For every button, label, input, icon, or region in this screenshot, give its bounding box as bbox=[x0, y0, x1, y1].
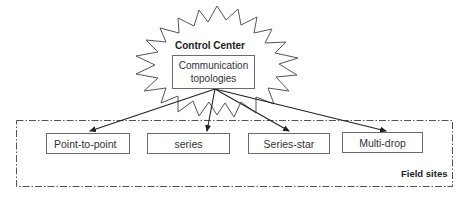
topology-label: series bbox=[174, 138, 202, 150]
arrow-to-multi-drop bbox=[215, 89, 386, 131]
communication-topologies-box: Communication topologies bbox=[172, 55, 255, 89]
topology-box-multi-drop: Multi-drop bbox=[342, 132, 423, 153]
topology-label: Series-star bbox=[264, 138, 315, 150]
communication-topologies-line1: Communication bbox=[179, 59, 248, 72]
field-sites-label: Field sites bbox=[401, 168, 447, 179]
topology-box-point-to-point: Point-to-point bbox=[46, 133, 130, 154]
topology-box-series: series bbox=[147, 133, 230, 154]
topology-label: Point-to-point bbox=[54, 138, 116, 150]
diagram-canvas bbox=[0, 0, 464, 198]
topology-box-series-star: Series-star bbox=[248, 133, 330, 154]
control-center-label: Control Center bbox=[175, 40, 245, 51]
topology-label: Multi-drop bbox=[359, 137, 406, 149]
communication-topologies-line2: topologies bbox=[191, 72, 237, 85]
